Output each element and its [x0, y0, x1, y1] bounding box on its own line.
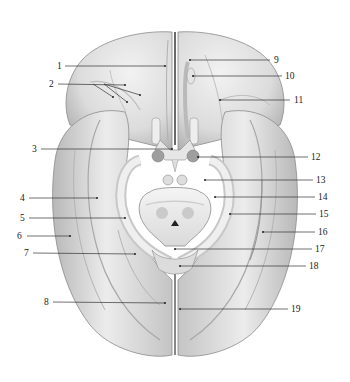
midbrain-section: [139, 188, 211, 247]
label-1: 1: [57, 61, 62, 71]
label-18: 18: [309, 261, 319, 271]
label-11: 11: [294, 95, 303, 105]
label-17: 17: [315, 244, 325, 254]
label-4: 4: [20, 193, 25, 203]
brain-diagram: 1 2 3 4 5 6 7 8 9 10 11 12 13 14 15 16 1…: [0, 0, 350, 382]
label-3: 3: [32, 144, 37, 154]
label-19: 19: [291, 304, 301, 314]
label-9: 9: [274, 55, 279, 65]
label-5: 5: [20, 213, 25, 223]
label-10: 10: [285, 71, 295, 81]
label-6: 6: [17, 231, 22, 241]
label-2: 2: [49, 79, 54, 89]
label-12: 12: [311, 152, 321, 162]
label-7: 7: [24, 248, 29, 258]
label-16: 16: [318, 227, 328, 237]
label-14: 14: [318, 192, 328, 202]
mammillary-body-right: [177, 175, 187, 185]
label-13: 13: [316, 175, 326, 185]
brain-illustration: [0, 0, 350, 382]
label-8: 8: [44, 297, 49, 307]
mammillary-body-left: [163, 175, 173, 185]
label-15: 15: [319, 209, 329, 219]
